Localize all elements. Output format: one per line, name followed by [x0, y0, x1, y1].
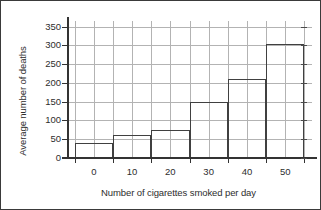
y-axis-right-tick	[301, 120, 307, 121]
gridline-vertical	[75, 21, 76, 158]
y-axis-tick-label: 200	[27, 78, 61, 88]
bar	[151, 130, 189, 158]
bar	[75, 143, 113, 158]
bar	[266, 44, 304, 158]
x-axis-tick-label: 0	[79, 167, 109, 177]
x-axis-tick-label: 10	[117, 167, 147, 177]
y-axis-tick	[62, 120, 68, 121]
y-axis-right-tick	[301, 102, 307, 103]
x-axis-tick	[228, 158, 229, 163]
y-axis-line	[67, 17, 69, 158]
y-axis-tick	[62, 158, 68, 159]
y-axis-tick-label: 350	[27, 22, 61, 32]
chart-figure: Average number of deaths Number of cigar…	[0, 0, 321, 210]
plot-area	[67, 21, 312, 158]
x-axis-tick-label: 30	[194, 167, 224, 177]
y-axis-tick	[62, 45, 68, 46]
y-axis-tick	[62, 64, 68, 65]
y-axis-tick	[62, 102, 68, 103]
x-axis-tick	[113, 158, 114, 163]
y-axis-tick-label: 300	[27, 40, 61, 50]
y-axis-tick-label: 250	[27, 59, 61, 69]
y-axis-tick-label: 100	[27, 115, 61, 125]
x-axis-tick-label: 20	[155, 167, 185, 177]
x-axis-tick	[190, 158, 191, 163]
x-axis-title: Number of cigarettes smoked per day	[41, 187, 316, 198]
bar	[113, 135, 151, 158]
y-axis-right-tick	[301, 45, 307, 46]
x-axis-tick	[75, 158, 76, 163]
y-axis-right-tick	[301, 83, 307, 84]
y-axis-tick	[62, 27, 68, 28]
y-axis-right-tick	[301, 158, 307, 159]
bar	[228, 79, 266, 158]
y-axis-tick-label: 50	[27, 134, 61, 144]
y-axis-tick	[62, 83, 68, 84]
y-axis-right-tick	[301, 27, 307, 28]
y-axis-tick	[62, 139, 68, 140]
gridline-vertical	[94, 21, 95, 158]
x-axis-tick-label: 50	[270, 167, 300, 177]
bar	[190, 102, 228, 158]
gridline-vertical	[304, 21, 305, 158]
y-axis-tick-label: 150	[27, 97, 61, 107]
x-axis-tick-label: 40	[232, 167, 262, 177]
x-axis-tick	[151, 158, 152, 163]
y-axis-tick-label: 0	[27, 153, 61, 163]
y-axis-right-tick	[301, 139, 307, 140]
x-axis-tick	[266, 158, 267, 163]
y-axis-right-tick	[301, 64, 307, 65]
